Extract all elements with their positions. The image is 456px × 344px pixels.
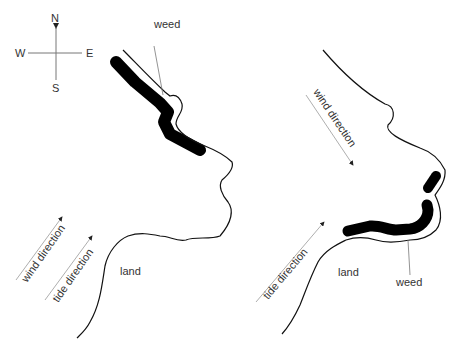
compass-n: N [51, 12, 59, 24]
diagram: N W E S weed land wind direction tide di… [0, 0, 456, 344]
right-tide-label: tide direction [260, 246, 309, 301]
right-land-label: land [338, 266, 359, 278]
left-land-label: land [120, 265, 141, 277]
left-weed-pointer [154, 46, 163, 95]
left-tide-label: tide direction [50, 246, 96, 304]
left-wind-label: wind direction [18, 222, 67, 285]
compass: N W E S [15, 12, 93, 94]
right-weed-patch-1 [428, 176, 436, 188]
right-coastline [282, 50, 445, 334]
compass-w: W [15, 47, 26, 59]
compass-s: S [52, 82, 59, 94]
right-weed-pointer [408, 240, 410, 275]
left-weed-label: weed [153, 18, 180, 30]
left-map: weed land wind direction tide direction [16, 18, 232, 338]
right-wind-label: wind direction [311, 86, 359, 149]
compass-e: E [86, 47, 93, 59]
right-weed-label: weed [395, 276, 422, 288]
right-map: weed land wind direction tide direction [256, 50, 445, 334]
right-weed-patch-2 [348, 205, 428, 231]
